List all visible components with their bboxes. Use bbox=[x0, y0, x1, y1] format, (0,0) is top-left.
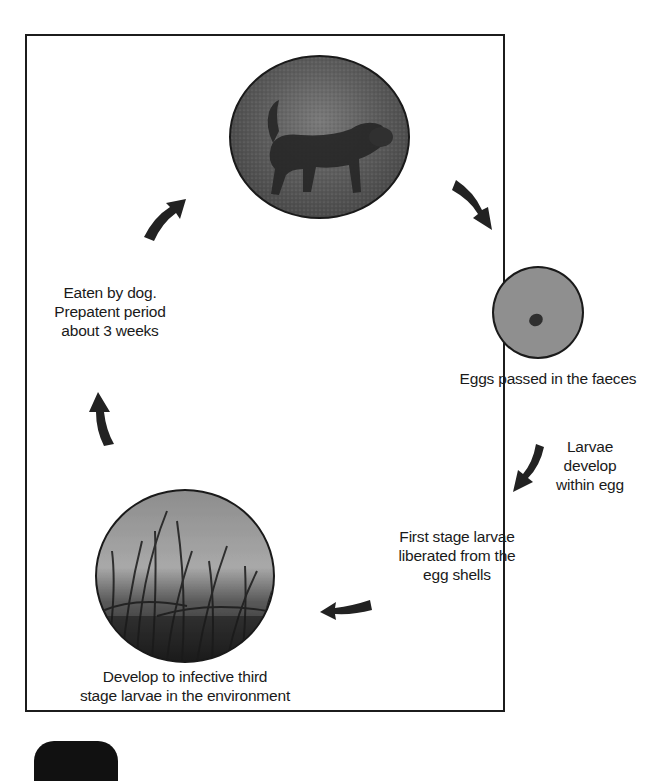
eaten-caption-line: Eaten by dog. bbox=[30, 283, 190, 302]
third-stage-caption: Develop to infective third stage larvae … bbox=[75, 667, 295, 705]
first-stage-caption-line: egg shells bbox=[382, 565, 532, 584]
larvae-caption-line: Larvae bbox=[540, 437, 640, 456]
eggs-caption: Eggs passed in the faeces bbox=[438, 369, 658, 388]
arrow-dog-to-eggs-icon bbox=[448, 170, 498, 240]
first-stage-caption-line: liberated from the bbox=[382, 546, 532, 565]
figure-number-tab bbox=[34, 741, 118, 781]
third-stage-caption-line: Develop to infective third bbox=[75, 667, 295, 686]
larvae-develop-caption: Larvae develop within egg bbox=[540, 437, 640, 494]
grass-photo bbox=[95, 489, 275, 663]
larvae-caption-line: within egg bbox=[540, 475, 640, 494]
eaten-caption: Eaten by dog. Prepatent period about 3 w… bbox=[30, 283, 190, 340]
egg-micrograph bbox=[492, 266, 584, 359]
arrow-eaten-to-dog-icon bbox=[140, 197, 190, 245]
first-stage-caption: First stage larvae liberated from the eg… bbox=[382, 527, 532, 584]
third-stage-caption-line: stage larvae in the environment bbox=[75, 686, 295, 705]
arrow-first-to-third-stage-icon bbox=[318, 596, 374, 624]
arrow-third-stage-to-eaten-icon bbox=[86, 390, 116, 448]
larvae-caption-line: develop bbox=[540, 456, 640, 475]
dog-silhouette-icon bbox=[231, 57, 410, 219]
eaten-caption-line: Prepatent period bbox=[30, 302, 190, 321]
first-stage-caption-line: First stage larvae bbox=[382, 527, 532, 546]
eaten-caption-line: about 3 weeks bbox=[30, 321, 190, 340]
dog-photo bbox=[229, 55, 410, 219]
